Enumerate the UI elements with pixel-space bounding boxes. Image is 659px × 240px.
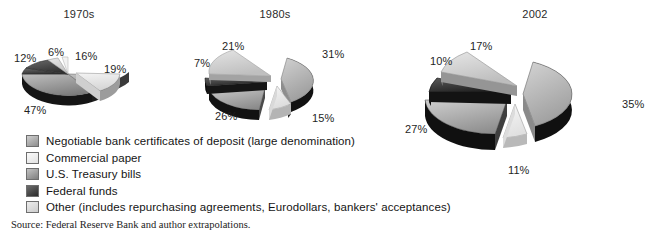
legend-label-treasury-bills: U.S. Treasury bills bbox=[46, 168, 141, 180]
pie-label-2002-17: 17% bbox=[470, 40, 492, 52]
pie-label-2002-35: 35% bbox=[622, 98, 644, 110]
pie-label-1980s-7: 7% bbox=[194, 57, 210, 69]
pie-label-1970s-6: 6% bbox=[48, 46, 64, 58]
pie-label-1970s-19: 19% bbox=[104, 63, 126, 75]
legend-label-federal-funds: Federal funds bbox=[46, 185, 118, 197]
legend-swatch-federal-funds bbox=[26, 185, 39, 197]
pie-label-1980s-31: 31% bbox=[322, 48, 344, 60]
pie-slice-other-1980s bbox=[209, 50, 271, 76]
legend-swatch-cds bbox=[26, 135, 39, 147]
pie-label-1980s-21: 21% bbox=[222, 40, 244, 52]
legend-swatch-commercial-paper bbox=[26, 152, 39, 164]
pie-label-2002-11: 11% bbox=[508, 164, 530, 176]
legend-item-commercial-paper: Commercial paper bbox=[26, 150, 426, 167]
legend-item-other: Other (includes repurchasing agreements,… bbox=[26, 199, 426, 216]
legend-item-cds: Negotiable bank certificates of deposit … bbox=[26, 133, 426, 150]
pie-label-1970s-12: 12% bbox=[14, 52, 36, 64]
pie-label-1970s-16: 16% bbox=[75, 50, 97, 62]
legend-item-treasury-bills: U.S. Treasury bills bbox=[26, 166, 426, 183]
legend-item-federal-funds: Federal funds bbox=[26, 183, 426, 200]
chart-title-2002: 2002 bbox=[490, 8, 580, 20]
pie-label-2002-10: 10% bbox=[430, 55, 452, 67]
legend-label-cds: Negotiable bank certificates of deposit … bbox=[46, 135, 355, 147]
figure-canvas: 1970s bbox=[0, 0, 659, 240]
pie-label-1980s-15: 15% bbox=[312, 112, 334, 124]
legend-label-commercial-paper: Commercial paper bbox=[46, 152, 142, 164]
legend-swatch-treasury-bills bbox=[26, 168, 39, 180]
legend-label-other: Other (includes repurchasing agreements,… bbox=[46, 201, 451, 213]
pie-label-1970s-47: 47% bbox=[24, 104, 46, 116]
legend-swatch-other bbox=[26, 201, 39, 213]
pie-label-1980s-26: 26% bbox=[215, 110, 237, 122]
chart-title-1970s: 1970s bbox=[34, 8, 124, 20]
source-note: Source: Federal Reserve Bank and author … bbox=[11, 219, 250, 230]
chart-title-1980s: 1980s bbox=[230, 8, 320, 20]
legend: Negotiable bank certificates of deposit … bbox=[26, 133, 426, 216]
